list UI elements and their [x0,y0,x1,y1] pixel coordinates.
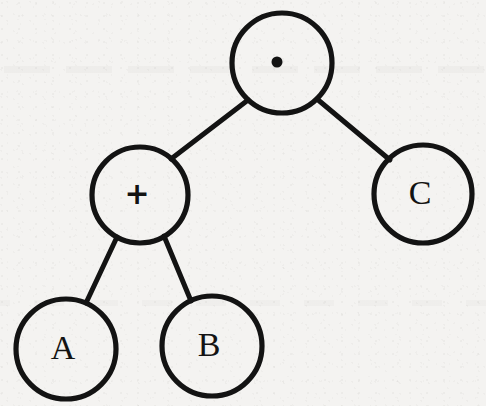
edge-plus-to-b [164,236,191,301]
edge-root-to-c [317,99,390,160]
edge-root-to-plus [171,100,248,159]
multiply-dot-icon [272,57,283,68]
figure-canvas: + C A B [0,0,486,406]
node-a[interactable]: A [16,299,116,399]
node-a-label: A [51,329,76,366]
node-c-label: C [409,174,432,211]
node-c[interactable]: C [374,145,472,243]
node-plus-label: + [124,176,149,211]
edge-plus-to-a [86,237,117,303]
expression-tree-diagram: + C A B [0,0,486,406]
node-b[interactable]: B [162,296,262,396]
node-plus[interactable]: + [92,147,188,243]
node-root[interactable] [232,13,332,113]
node-b-label: B [198,326,221,363]
